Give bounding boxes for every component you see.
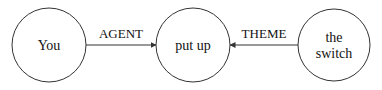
edge-label-agent: AGENT [99, 26, 143, 41]
edge-label-theme: THEME [242, 26, 287, 41]
node-put-up: put up [156, 8, 230, 82]
semantic-role-diagram: You put up the switch AGENT THEME [0, 0, 382, 90]
edge-agent: AGENT [86, 26, 156, 45]
node-label-switch: switch [316, 46, 353, 61]
edge-theme: THEME [230, 26, 298, 45]
node-label-you: You [38, 38, 61, 53]
node-label-the: the [325, 30, 342, 45]
node-the-switch: the switch [298, 9, 370, 81]
node-you: You [12, 8, 86, 82]
node-label-put-up: put up [175, 38, 210, 53]
